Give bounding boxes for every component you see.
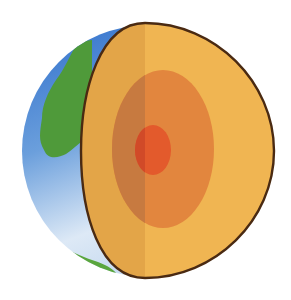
cut-face (80, 20, 280, 285)
earth-cutaway-graphic (0, 0, 291, 300)
earth-illustration: Earth interior cross-section illustratio… (0, 0, 291, 300)
inner-core (135, 125, 171, 175)
